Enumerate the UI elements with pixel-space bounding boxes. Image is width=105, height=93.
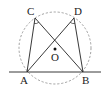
label-a: A (20, 74, 28, 86)
label-d: D (74, 5, 82, 17)
label-c: C (27, 5, 34, 17)
label-b: B (82, 74, 89, 86)
angle-mark-d (70, 22, 75, 23)
label-o: O (51, 51, 59, 63)
angle-mark-c (34, 22, 39, 23)
geometry-diagram: C D A B O (0, 0, 105, 93)
